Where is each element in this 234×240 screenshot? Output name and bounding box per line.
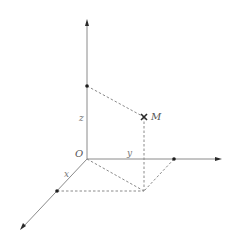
y-axis-label: y	[126, 148, 133, 158]
y-point-to-xy-projection-dashed-line	[144, 159, 174, 191]
projection-lines	[57, 86, 174, 191]
coordinate-diagram: O M z y x	[0, 0, 234, 240]
x-coordinate-point	[55, 189, 59, 193]
z-axis-label: z	[78, 113, 84, 123]
y-coordinate-point	[172, 157, 176, 161]
y-axis-arrow-icon	[215, 157, 222, 161]
x-axis-label: x	[64, 169, 69, 179]
axes	[20, 19, 222, 230]
labels: O M z y x	[64, 111, 162, 179]
origin-label: O	[75, 148, 83, 159]
x-axis	[23, 159, 87, 227]
point-m-label: M	[150, 111, 162, 122]
z-axis-arrow-icon	[85, 19, 89, 26]
origin-to-xy-projection-dashed-line	[87, 159, 144, 191]
z-to-m-dashed-line	[87, 86, 144, 117]
z-coordinate-point	[85, 84, 89, 88]
